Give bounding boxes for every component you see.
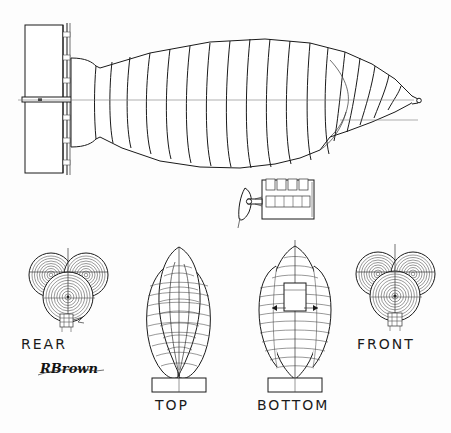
bottom-view-label: BOTTOM — [257, 397, 329, 413]
artist-signature: RBrown — [39, 361, 98, 376]
bottom-view-base-plate — [268, 378, 322, 392]
gondola — [262, 179, 314, 219]
top-view-label: TOP — [154, 397, 189, 413]
rear-view-label: REAR — [21, 336, 67, 352]
drawing-sheet: REAR RBrown — [0, 0, 451, 433]
technical-drawing-canvas: REAR RBrown — [0, 0, 451, 433]
top-view-base-plate — [152, 378, 206, 392]
bottom-gondola-box — [284, 283, 306, 311]
front-view-label: FRONT — [357, 336, 415, 352]
horizontal-stabilizer — [22, 97, 72, 102]
